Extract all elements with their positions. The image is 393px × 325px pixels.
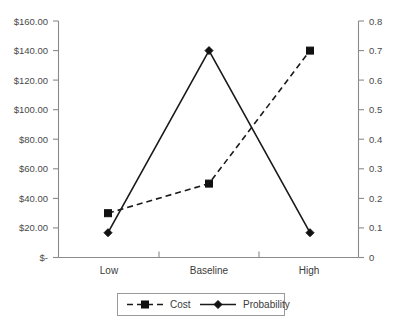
- cost-point-high: [307, 47, 314, 54]
- legend-entry-cost[interactable]: Cost: [127, 299, 191, 310]
- legend-probability-marker: [214, 301, 222, 309]
- left-tick-label-60: $60.00: [19, 163, 48, 174]
- chart-legend: Cost Probability: [118, 294, 290, 316]
- legend-probability-label: Probability: [243, 299, 290, 310]
- chart-canvas: $160.00 $140.00 $120.00 $100.00 $80.00 $…: [0, 0, 393, 325]
- x-category-label-high: High: [299, 265, 320, 276]
- left-tick-label-100: $100.00: [14, 104, 48, 115]
- cost-line: [108, 51, 310, 214]
- series-cost: [105, 47, 314, 217]
- legend-cost-marker: [142, 301, 149, 308]
- right-tick-label-0-2: 0.2: [369, 193, 382, 204]
- left-tick-label-0: $-: [40, 252, 48, 263]
- left-tick-label-120: $120.00: [14, 75, 48, 86]
- category-axis: Low Baseline High: [59, 252, 359, 277]
- probability-point-high: [306, 229, 314, 237]
- left-tick-label-40: $40.00: [19, 193, 48, 204]
- x-category-label-baseline: Baseline: [190, 265, 229, 276]
- probability-point-low: [104, 229, 112, 237]
- cost-point-low: [105, 210, 112, 217]
- right-value-axis: 0.8 0.7 0.6 0.5 0.4 0.3 0.2 0.1 0: [359, 16, 383, 264]
- legend-cost-label: Cost: [170, 299, 191, 310]
- right-tick-label-0: 0: [369, 252, 374, 263]
- right-tick-label-0-1: 0.1: [369, 222, 382, 233]
- right-tick-label-0-6: 0.6: [369, 75, 382, 86]
- probability-point-baseline: [205, 47, 213, 55]
- left-value-axis: $160.00 $140.00 $120.00 $100.00 $80.00 $…: [14, 16, 59, 264]
- cost-point-baseline: [206, 180, 213, 187]
- right-tick-label-0-3: 0.3: [369, 163, 382, 174]
- left-tick-label-140: $140.00: [14, 45, 48, 56]
- sensitivity-line-chart: $160.00 $140.00 $120.00 $100.00 $80.00 $…: [0, 0, 393, 325]
- probability-line: [108, 51, 310, 233]
- right-tick-label-0-4: 0.4: [369, 134, 382, 145]
- right-tick-label-0-5: 0.5: [369, 104, 382, 115]
- right-tick-label-0-8: 0.8: [369, 16, 382, 27]
- series-probability: [104, 47, 314, 237]
- right-tick-label-0-7: 0.7: [369, 45, 382, 56]
- left-tick-label-80: $80.00: [19, 134, 48, 145]
- left-tick-label-20: $20.00: [19, 222, 48, 233]
- legend-entry-probability[interactable]: Probability: [200, 299, 290, 310]
- left-tick-label-160: $160.00: [14, 16, 48, 27]
- x-category-label-low: Low: [100, 265, 119, 276]
